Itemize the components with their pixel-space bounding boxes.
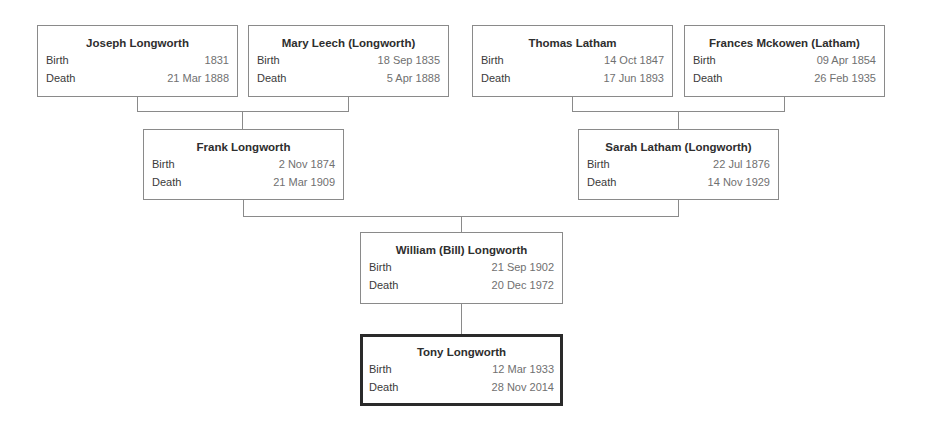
person-card-sarah-latham[interactable]: Sarah Latham (Longworth) Birth 22 Jul 18… — [578, 129, 779, 200]
person-card-thomas-latham[interactable]: Thomas Latham Birth 14 Oct 1847 Death 17… — [472, 25, 673, 97]
death-date: 20 Dec 1972 — [492, 276, 554, 294]
birth-date: 22 Jul 1876 — [713, 155, 770, 173]
death-label: Death — [481, 69, 510, 87]
connector — [137, 96, 138, 111]
death-label: Death — [46, 69, 75, 87]
death-date: 17 Jun 1893 — [603, 69, 664, 87]
birth-date: 21 Sep 1902 — [492, 258, 554, 276]
connector — [678, 111, 679, 129]
birth-label: Birth — [481, 51, 504, 69]
birth-date: 1831 — [205, 51, 229, 69]
birth-row: Birth 1831 — [46, 51, 229, 69]
death-row: Death 14 Nov 1929 — [587, 173, 770, 191]
person-name: Frances Mckowen (Latham) — [693, 35, 876, 51]
person-name: Tony Longworth — [369, 344, 554, 360]
death-row: Death 26 Feb 1935 — [693, 69, 876, 87]
connector — [784, 96, 785, 111]
person-card-tony-longworth[interactable]: Tony Longworth Birth 12 Mar 1933 Death 2… — [360, 334, 563, 406]
birth-row: Birth 21 Sep 1902 — [369, 258, 554, 276]
birth-row: Birth 22 Jul 1876 — [587, 155, 770, 173]
birth-label: Birth — [257, 51, 280, 69]
birth-label: Birth — [587, 155, 610, 173]
birth-label: Birth — [369, 258, 392, 276]
death-date: 21 Mar 1888 — [167, 69, 229, 87]
birth-row: Birth 18 Sep 1835 — [257, 51, 440, 69]
connector — [572, 96, 573, 111]
birth-label: Birth — [152, 155, 175, 173]
death-row: Death 21 Mar 1888 — [46, 69, 229, 87]
person-card-frank-longworth[interactable]: Frank Longworth Birth 2 Nov 1874 Death 2… — [143, 129, 344, 200]
person-card-mary-leech[interactable]: Mary Leech (Longworth) Birth 18 Sep 1835… — [248, 25, 449, 97]
birth-label: Birth — [369, 360, 392, 378]
family-tree: Joseph Longworth Birth 1831 Death 21 Mar… — [0, 0, 926, 430]
death-row: Death 5 Apr 1888 — [257, 69, 440, 87]
person-name: William (Bill) Longworth — [369, 242, 554, 258]
person-name: Sarah Latham (Longworth) — [587, 139, 770, 155]
connector — [678, 199, 679, 216]
death-date: 5 Apr 1888 — [387, 69, 440, 87]
death-row: Death 20 Dec 1972 — [369, 276, 554, 294]
death-label: Death — [257, 69, 286, 87]
connector — [242, 111, 243, 129]
person-name: Frank Longworth — [152, 139, 335, 155]
death-row: Death 21 Mar 1909 — [152, 173, 335, 191]
birth-label: Birth — [693, 51, 716, 69]
person-name: Joseph Longworth — [46, 35, 229, 51]
person-card-william-longworth[interactable]: William (Bill) Longworth Birth 21 Sep 19… — [360, 232, 563, 304]
birth-date: 14 Oct 1847 — [604, 51, 664, 69]
death-date: 26 Feb 1935 — [814, 69, 876, 87]
birth-date: 18 Sep 1835 — [378, 51, 440, 69]
death-date: 14 Nov 1929 — [708, 173, 770, 191]
death-date: 21 Mar 1909 — [273, 173, 335, 191]
person-name: Mary Leech (Longworth) — [257, 35, 440, 51]
death-label: Death — [587, 173, 616, 191]
death-label: Death — [369, 378, 398, 396]
death-label: Death — [693, 69, 722, 87]
birth-row: Birth 12 Mar 1933 — [369, 360, 554, 378]
death-row: Death 28 Nov 2014 — [369, 378, 554, 396]
connector — [243, 199, 244, 216]
birth-row: Birth 09 Apr 1854 — [693, 51, 876, 69]
person-card-joseph-longworth[interactable]: Joseph Longworth Birth 1831 Death 21 Mar… — [37, 25, 238, 97]
birth-date: 2 Nov 1874 — [279, 155, 335, 173]
birth-date: 12 Mar 1933 — [492, 360, 554, 378]
death-date: 28 Nov 2014 — [492, 378, 554, 396]
connector — [137, 111, 349, 112]
birth-row: Birth 14 Oct 1847 — [481, 51, 664, 69]
death-label: Death — [369, 276, 398, 294]
connector — [461, 216, 462, 232]
birth-row: Birth 2 Nov 1874 — [152, 155, 335, 173]
birth-date: 09 Apr 1854 — [817, 51, 876, 69]
connector — [461, 303, 462, 334]
person-card-frances-mckowen[interactable]: Frances Mckowen (Latham) Birth 09 Apr 18… — [684, 25, 885, 97]
death-row: Death 17 Jun 1893 — [481, 69, 664, 87]
birth-label: Birth — [46, 51, 69, 69]
death-label: Death — [152, 173, 181, 191]
person-name: Thomas Latham — [481, 35, 664, 51]
connector — [348, 96, 349, 111]
